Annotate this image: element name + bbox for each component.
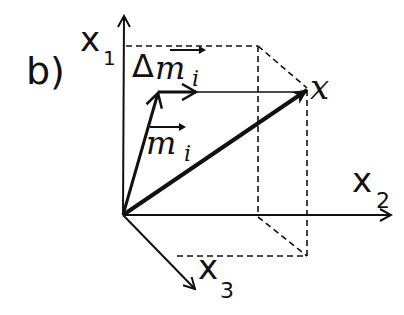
x-vector-label: x bbox=[310, 70, 329, 104]
x2-subscript: 2 bbox=[376, 190, 390, 212]
x1-base: x bbox=[80, 19, 100, 59]
m-i-vector-accent bbox=[150, 126, 184, 128]
m-i-subscript: i bbox=[184, 143, 191, 165]
vector-decomposition-diagram: b) x 1 x 2 x 3 Δ m i m i x bbox=[0, 0, 404, 315]
x1-axis bbox=[123, 16, 124, 215]
delta-m-i-prefix: Δ bbox=[132, 50, 154, 82]
x3-axis bbox=[123, 215, 195, 289]
x3-base: x bbox=[198, 247, 218, 287]
delta-m-i-vector-accent bbox=[170, 49, 204, 51]
panel-label: b) bbox=[26, 52, 65, 90]
m-i-label: m bbox=[146, 127, 176, 159]
delta-m-i-label: m bbox=[155, 52, 185, 84]
x2-axis-label: x bbox=[352, 163, 372, 197]
x1-subscript: 1 bbox=[103, 48, 116, 68]
x1-axis-label: x bbox=[80, 22, 100, 56]
x3-subscript: 3 bbox=[220, 280, 234, 302]
delta-m-i-subscript: i bbox=[192, 68, 199, 90]
x3-axis-label: x bbox=[198, 250, 218, 284]
x2-base: x bbox=[352, 160, 372, 200]
